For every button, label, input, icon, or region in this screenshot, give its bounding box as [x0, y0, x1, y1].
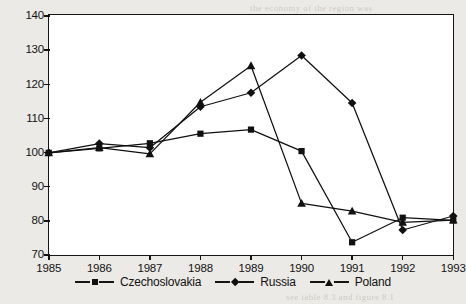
series-line — [49, 130, 454, 243]
legend-triangle-icon — [325, 278, 334, 287]
legend-label: Russia — [260, 276, 295, 288]
data-point-marker — [349, 239, 355, 245]
data-point-marker — [247, 61, 256, 69]
legend-item-russia[interactable]: Russia — [215, 276, 295, 288]
line-chart: the economy of the region was in transit… — [0, 0, 466, 304]
series-russia — [44, 51, 457, 234]
series-line — [49, 56, 454, 230]
data-point-marker — [298, 148, 304, 154]
data-point-marker — [196, 98, 205, 106]
legend-label: Poland — [355, 276, 391, 288]
data-point-marker — [197, 131, 203, 137]
legend-line-left — [215, 281, 230, 282]
legend-line-left — [75, 281, 90, 282]
data-point-marker — [297, 199, 306, 207]
data-point-marker — [398, 226, 407, 235]
chart-legend: CzechoslovakiaRussiaPoland — [0, 276, 466, 288]
legend-marker-glyph — [230, 277, 239, 286]
data-point-marker — [247, 88, 256, 97]
legend-line-right — [239, 281, 254, 282]
legend-line-right — [334, 281, 349, 282]
legend-item-czechoslovakia[interactable]: Czechoslovakia — [75, 276, 201, 288]
legend-square-icon — [90, 278, 99, 287]
legend-item-poland[interactable]: Poland — [310, 276, 391, 288]
data-point-marker — [248, 127, 254, 133]
legend-line-left — [310, 281, 325, 282]
series-layer — [0, 0, 466, 304]
legend-marker-glyph — [325, 279, 333, 286]
legend-marker-glyph — [92, 279, 98, 285]
legend-diamond-icon — [230, 278, 239, 287]
legend-line-right — [99, 281, 114, 282]
legend-label: Czechoslovakia — [120, 276, 201, 288]
